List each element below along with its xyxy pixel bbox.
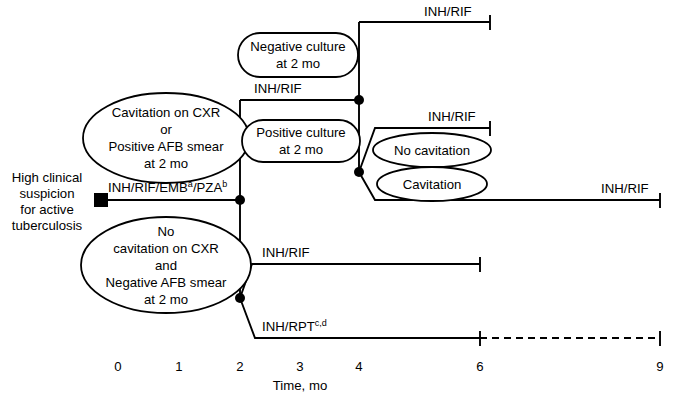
lower-criteria-line-1: No xyxy=(158,224,175,239)
axis-tick-1: 1 xyxy=(175,359,182,374)
lower-criteria-line-2: cavitation on CXR xyxy=(113,241,219,256)
upper-criteria-line-4: at 2 mo xyxy=(144,156,188,171)
lower-criteria-line-4: Negative AFB smear xyxy=(106,275,228,290)
upper-criteria-line-1: Cavitation on CXR xyxy=(112,105,220,120)
upper-criteria-line-2: or xyxy=(160,122,172,137)
positive-culture-line-2: at 2 mo xyxy=(279,142,323,157)
axis-tick-9: 9 xyxy=(656,359,663,374)
cavitation-inh-rif-label: INH/RIF xyxy=(601,181,649,196)
lower-criteria-line-5: at 2 mo xyxy=(144,292,188,307)
no-cavitation-label: No cavitation xyxy=(394,143,470,158)
axis-tick-2: 2 xyxy=(236,359,243,374)
axis-tick-6: 6 xyxy=(476,359,483,374)
start-node-label: High clinical suspicion for active tuber… xyxy=(12,170,83,233)
flowchart-canvas: High clinical suspicion for active tuber… xyxy=(0,0,680,396)
mid-inh-rif-label: INH/RIF xyxy=(254,81,302,96)
initial-phase-regimen-label: INH/RIF/EMBa/PZAb xyxy=(108,179,227,195)
axis-tick-4: 4 xyxy=(355,359,362,374)
no-cavitation-inh-rif-label: INH/RIF xyxy=(428,109,476,124)
time-axis-tick-labels: 0 1 2 3 4 6 9 xyxy=(114,359,663,374)
start-square-marker xyxy=(94,193,108,207)
negative-culture-line-1: Negative culture xyxy=(250,39,345,54)
positive-culture-line-1: Positive culture xyxy=(256,125,345,140)
tuberculosis-treatment-algorithm-figure: High clinical suspicion for active tuber… xyxy=(0,0,680,396)
lower-criteria-line-3: and xyxy=(155,258,177,273)
axis-title: Time, mo xyxy=(273,378,327,393)
axis-tick-3: 3 xyxy=(296,359,303,374)
start-label-line-4: tuberculosis xyxy=(12,218,83,233)
axis-tick-0: 0 xyxy=(114,359,121,374)
top-inh-rif-label: INH/RIF xyxy=(424,4,472,19)
negative-culture-line-2: at 2 mo xyxy=(276,56,320,71)
start-label-line-1: High clinical xyxy=(12,170,82,185)
upper-criteria-line-3: Positive AFB smear xyxy=(108,139,224,154)
lower-inh-rif-label: INH/RIF xyxy=(262,245,310,260)
start-label-line-3: for active xyxy=(20,202,74,217)
lower-inh-rif-branch-line xyxy=(240,264,480,298)
cavitation-label: Cavitation xyxy=(403,177,462,192)
start-label-line-2: suspicion xyxy=(20,186,75,201)
inh-rpt-label: INH/RPTc,d xyxy=(262,318,327,334)
